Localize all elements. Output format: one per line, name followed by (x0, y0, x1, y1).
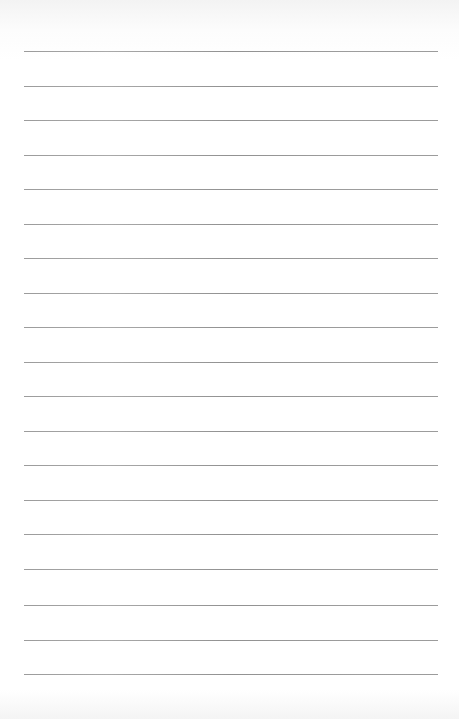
ruled-line (24, 258, 438, 259)
ruled-line (24, 224, 438, 225)
ruled-line (24, 500, 438, 501)
ruled-line (24, 189, 438, 190)
ruled-line (24, 431, 438, 432)
lined-paper-page (0, 0, 459, 719)
ruled-line (24, 51, 438, 52)
ruled-line (24, 534, 438, 535)
ruled-line (24, 86, 438, 87)
ruled-line (24, 327, 438, 328)
ruled-line (24, 155, 438, 156)
ruled-line (24, 120, 438, 121)
ruled-line (24, 569, 438, 570)
ruled-line (24, 674, 438, 675)
ruled-line (24, 605, 438, 606)
ruled-line (24, 640, 438, 641)
ruled-line (24, 465, 438, 466)
ruled-line (24, 396, 438, 397)
ruled-line (24, 362, 438, 363)
ruled-line (24, 293, 438, 294)
